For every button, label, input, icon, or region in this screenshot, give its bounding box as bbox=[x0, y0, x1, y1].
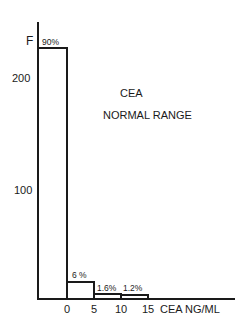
bar-below-0 bbox=[38, 48, 67, 299]
x-tick-5: 5 bbox=[91, 304, 97, 315]
y-tick-200: 200 bbox=[12, 73, 30, 84]
x-axis-label: CEA NG/ML bbox=[160, 304, 220, 315]
bar-0-5 bbox=[67, 282, 94, 299]
y-axis-label: F bbox=[26, 35, 33, 47]
y-tick-100: 100 bbox=[14, 185, 32, 196]
bar-label-6: 6 % bbox=[72, 271, 87, 280]
histogram-plot bbox=[0, 0, 248, 331]
bar-label-1-2: 1.2% bbox=[123, 284, 142, 293]
bar-5-10 bbox=[94, 294, 121, 299]
x-tick-0: 0 bbox=[64, 304, 70, 315]
chart-title-line-1: CEA bbox=[120, 88, 143, 99]
bar-label-1-6: 1.6% bbox=[97, 284, 116, 293]
x-tick-15: 15 bbox=[142, 304, 154, 315]
bar-10-15 bbox=[121, 295, 148, 299]
bar-label-90: 90% bbox=[42, 38, 59, 47]
chart-title-line-2: NORMAL RANGE bbox=[103, 110, 192, 121]
x-tick-10: 10 bbox=[115, 304, 127, 315]
